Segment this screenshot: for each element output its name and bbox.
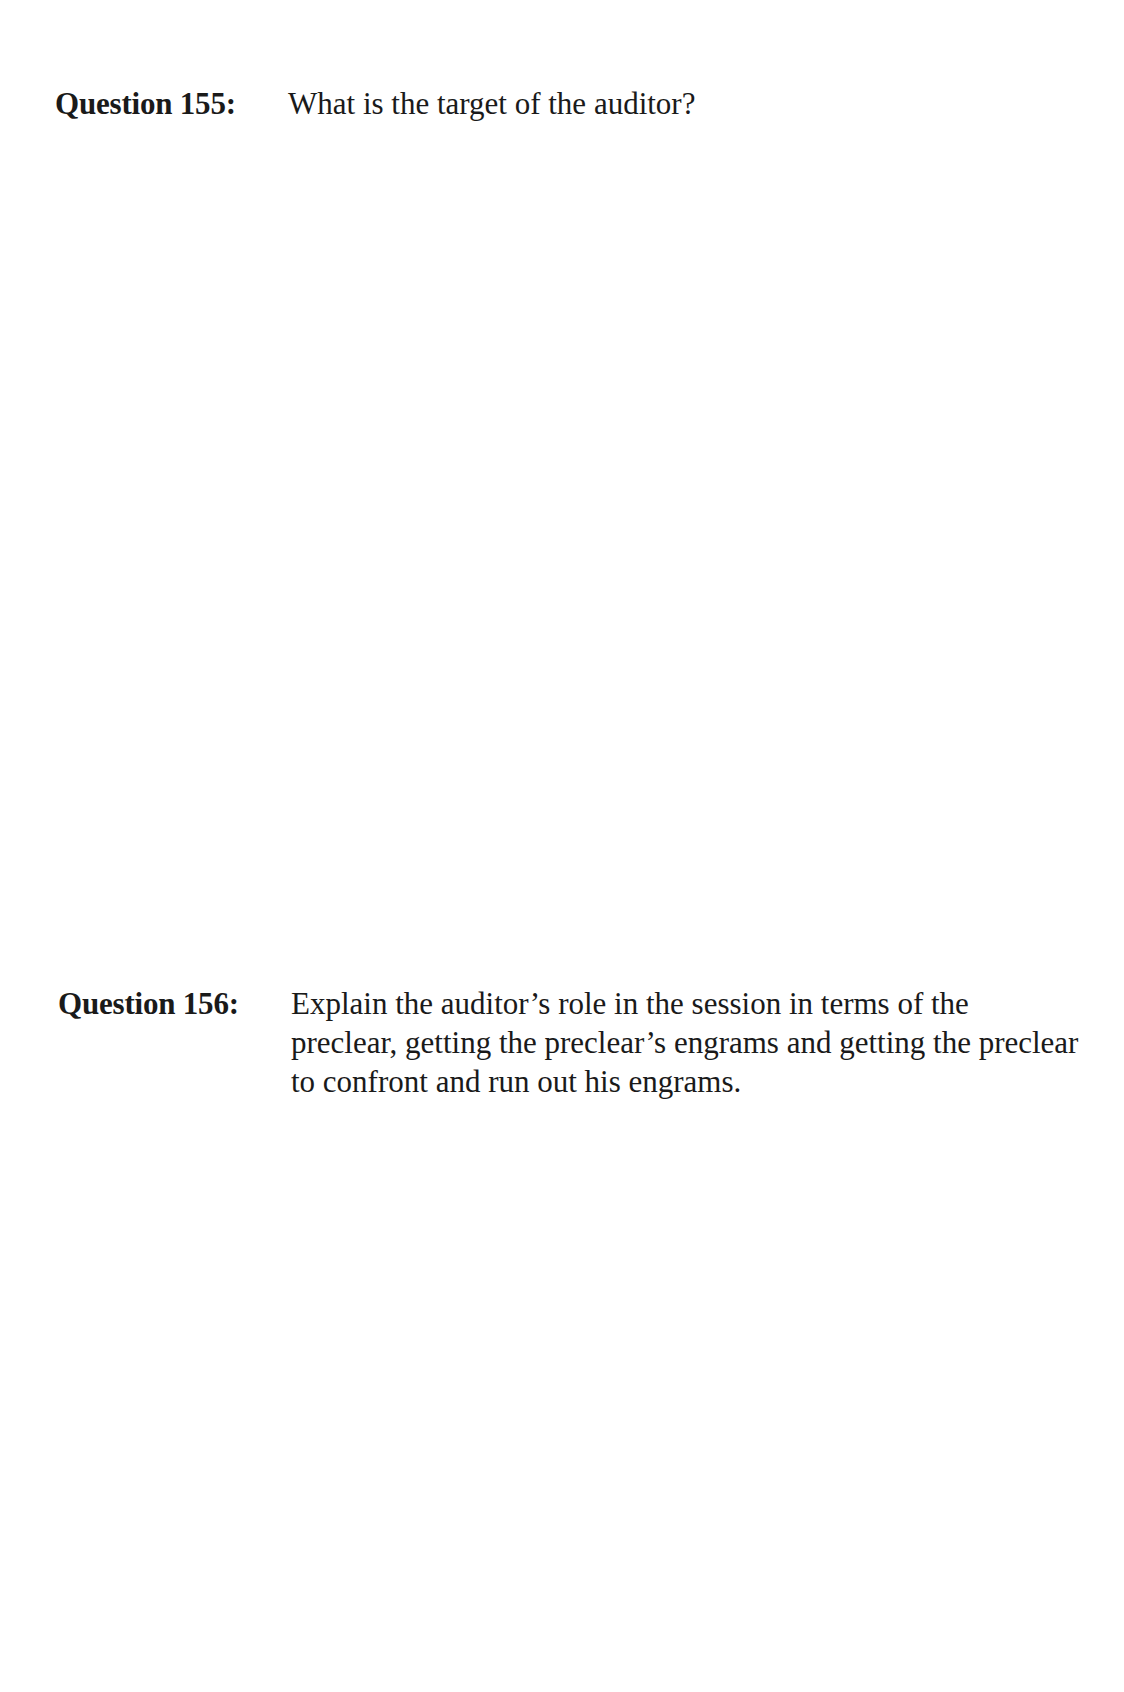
question-label: Question 156: — [58, 984, 291, 1023]
question-text: What is the target of the auditor? — [288, 84, 695, 123]
question-text: Explain the auditor’s role in the sessio… — [291, 984, 1081, 1101]
question-label: Question 155: — [55, 84, 288, 123]
question-155: Question 155: What is the target of the … — [55, 84, 695, 123]
question-156: Question 156: Explain the auditor’s role… — [58, 984, 1081, 1101]
